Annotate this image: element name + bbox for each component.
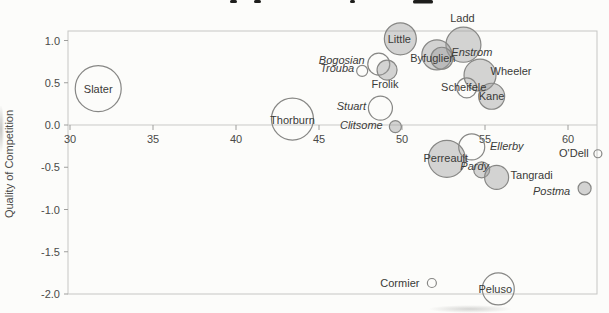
bubble-postma xyxy=(578,182,591,195)
label-kane: Kane xyxy=(479,90,505,102)
label-cormier: Cormier xyxy=(380,277,419,289)
x-tick-label-45: 45 xyxy=(313,133,325,145)
label-slater: Slater xyxy=(84,83,113,95)
label-ladd: Ladd xyxy=(450,12,474,24)
x-tick-label-35: 35 xyxy=(147,133,159,145)
y-tick-label--1.0: -1.0 xyxy=(41,204,60,216)
label-ellerby: Ellerby xyxy=(490,140,525,152)
x-tick-label-50: 50 xyxy=(396,133,408,145)
bubble-frolik xyxy=(377,60,397,80)
label-stuart: Stuart xyxy=(337,100,367,112)
bubble-chart: 1.00.50.0-0.5-1.0-1.5-2.0 30354045505560… xyxy=(0,0,609,313)
label-thorburn: Thorburn xyxy=(270,114,315,126)
bubble-stuart xyxy=(368,96,392,120)
label-wheeler: Wheeler xyxy=(491,65,532,77)
label-peluso: Peluso xyxy=(478,283,512,295)
y-axis-title: Quality of Competition xyxy=(3,110,15,218)
label-postma: Postma xyxy=(533,185,570,197)
x-tick-label-60: 60 xyxy=(562,133,574,145)
label-pardy: Pardy xyxy=(460,160,490,172)
x-tick-label-30: 30 xyxy=(64,133,76,145)
label-enstrom: Enstrom xyxy=(451,46,492,58)
y-axis-ticks: 1.00.50.0-0.5-1.0-1.5-2.0 xyxy=(41,35,68,301)
label-clitsome: Clitsome xyxy=(340,119,383,131)
y-tick-label-0.5: 0.5 xyxy=(45,77,60,89)
label-little: Little xyxy=(388,33,411,45)
bubble-odell xyxy=(594,150,602,158)
label-tangradi: Tangradi xyxy=(511,169,553,181)
y-tick-label-0.0: 0.0 xyxy=(45,119,60,131)
y-tick-label--2.0: -2.0 xyxy=(41,288,60,300)
y-tick-label-1.0: 1.0 xyxy=(45,35,60,47)
bubble-clitsome xyxy=(389,121,401,133)
bubble-cormier xyxy=(427,279,436,288)
label-odell: O'Dell xyxy=(559,147,589,159)
cropped-title-descenders xyxy=(230,0,433,4)
labels-layer: SlaterThorburnLittleLaddByfuglienEnstrom… xyxy=(84,12,589,295)
y-tick-label--0.5: -0.5 xyxy=(41,161,60,173)
label-frolik: Frolik xyxy=(372,78,399,90)
label-byfuglien: Byfuglien xyxy=(410,52,455,64)
label-trouba: Trouba xyxy=(320,62,354,74)
bubble-trouba xyxy=(357,65,368,76)
x-tick-label-40: 40 xyxy=(230,133,242,145)
y-tick-label--1.5: -1.5 xyxy=(41,246,60,258)
